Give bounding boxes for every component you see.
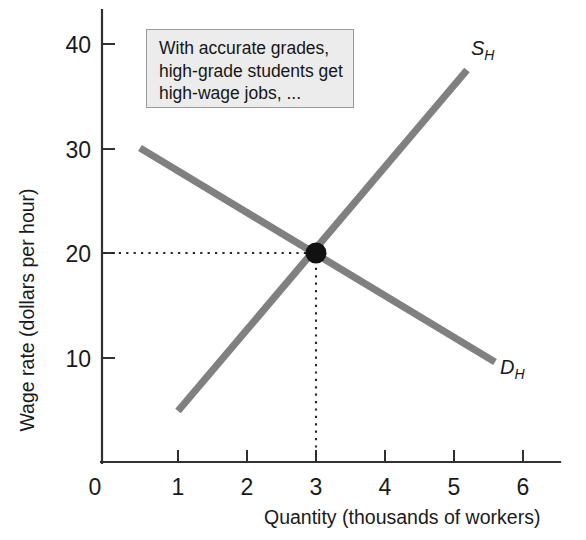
y-tick-label-30: 30 (65, 137, 91, 163)
y-tick-label-20: 20 (65, 241, 91, 267)
x-tick-label-3: 3 (310, 474, 323, 500)
y-tick-label-40: 40 (65, 32, 91, 58)
x-tick-label-2: 2 (241, 474, 254, 500)
supply-curve-label: SH (471, 37, 495, 63)
callout-box: With accurate grades, high-grade student… (146, 29, 354, 108)
y-tick-label-10: 10 (65, 346, 91, 372)
x-tick-label-1: 1 (172, 474, 185, 500)
supply-curve-label-sub: H (484, 47, 495, 63)
y-axis-title: Wage rate (dollars per hour) (16, 188, 38, 431)
x-tick-label-4: 4 (379, 474, 392, 500)
x-axis-title: Quantity (thousands of workers) (264, 506, 540, 528)
supply-curve (178, 70, 467, 411)
supply-demand-chart: 40 30 20 10 0 1 2 3 4 5 6 Quantity (thou… (0, 0, 586, 540)
demand-curve-label: DH (500, 356, 525, 382)
x-tick-label-6: 6 (517, 474, 530, 500)
callout-line-1: With accurate grades, (159, 37, 347, 60)
supply-curve-label-main: S (471, 37, 485, 59)
demand-curve-label-main: D (500, 356, 514, 378)
callout-line-3: high-wage jobs, ... (159, 82, 347, 105)
x-tick-label-5: 5 (448, 474, 461, 500)
x-tick-label-0: 0 (89, 474, 102, 500)
demand-curve-label-sub: H (514, 366, 525, 382)
equilibrium-point (306, 243, 327, 264)
callout-line-2: high-grade students get (159, 60, 347, 83)
